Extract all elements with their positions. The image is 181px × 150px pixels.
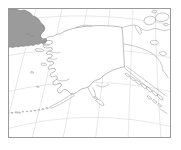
aleutian-island <box>42 109 44 110</box>
map-canvas <box>0 0 181 150</box>
aleutian-island <box>46 108 49 109</box>
st-matthew-island-outline <box>31 72 34 74</box>
aleutian-island <box>26 111 28 112</box>
pribilof-island-outline <box>37 86 40 88</box>
aleutian-island <box>22 111 24 112</box>
aleutian-island <box>30 111 32 112</box>
aleutian-island-far-west <box>11 112 13 113</box>
locator-map-figure: Alaska locator map conic Chukotka / Russ… <box>0 0 181 150</box>
aleutian-island <box>38 109 40 110</box>
diomede-islet <box>42 39 44 40</box>
aleutian-island <box>34 110 36 111</box>
